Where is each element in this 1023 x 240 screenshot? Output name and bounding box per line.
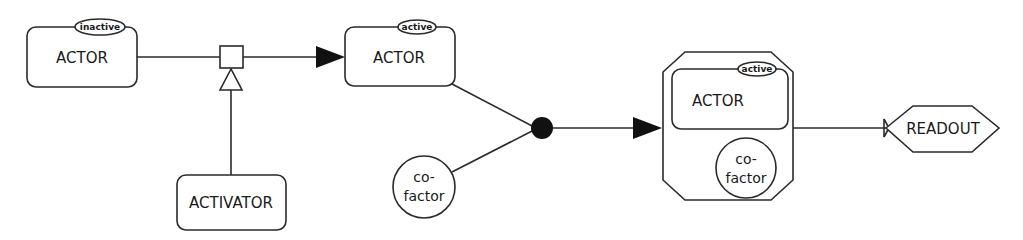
state-variable-label: active xyxy=(402,22,433,32)
edge-actor-active-to-association xyxy=(452,84,534,127)
diagram-canvas: inactive ACTOR ACTIVATOR active ACTOR co… xyxy=(0,0,1023,240)
actor-label: ACTOR xyxy=(692,92,744,110)
cofactor-node[interactable]: co- factor xyxy=(393,156,455,218)
readout-node[interactable]: READOUT xyxy=(886,106,999,152)
process-node[interactable] xyxy=(220,46,243,68)
complex-cofactor-node[interactable]: co- factor xyxy=(716,138,776,198)
readout-label: READOUT xyxy=(906,120,980,138)
state-variable-label: inactive xyxy=(80,22,120,32)
cofactor-label-line1: co- xyxy=(735,151,757,167)
edge-cofactor-to-association xyxy=(452,130,534,172)
cofactor-label-line1: co- xyxy=(413,169,435,185)
state-variable-label: active xyxy=(742,64,773,74)
association-node[interactable] xyxy=(531,117,553,139)
cofactor-label-line2: factor xyxy=(403,188,444,204)
complex-actor-node[interactable]: active ACTOR xyxy=(672,62,788,129)
simple-chemical-shape xyxy=(393,156,455,218)
cofactor-label-line2: factor xyxy=(725,170,766,186)
actor-label: ACTOR xyxy=(373,49,425,67)
production-arrowhead-icon xyxy=(633,117,662,139)
complex-node[interactable]: active ACTOR co- factor xyxy=(663,52,793,200)
actor-label: ACTOR xyxy=(56,49,108,67)
production-arrowhead-icon xyxy=(316,46,345,68)
stimulation-arrowhead-icon xyxy=(220,69,242,90)
activator-label: ACTIVATOR xyxy=(189,194,273,212)
activator-node[interactable]: ACTIVATOR xyxy=(177,175,286,230)
actor-active-node[interactable]: active ACTOR xyxy=(345,20,455,86)
simple-chemical-shape xyxy=(716,138,776,198)
actor-inactive-node[interactable]: inactive ACTOR xyxy=(27,19,137,87)
